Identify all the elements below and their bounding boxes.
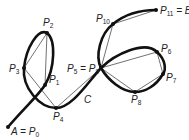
point-p10	[111, 22, 115, 26]
point-p2	[45, 31, 49, 35]
label-p8: P8	[131, 94, 142, 106]
point-p1	[43, 83, 47, 87]
label-p1: P1	[49, 74, 60, 86]
chord-p8-p9	[101, 68, 135, 92]
label-p4: P4	[53, 111, 64, 123]
label-p3: P3	[9, 63, 20, 75]
point-p11	[154, 8, 158, 12]
point-p5-p9	[99, 66, 103, 70]
point-p6	[155, 50, 159, 54]
label-p10: P10	[96, 13, 110, 25]
point-p0	[6, 125, 10, 129]
curve-diagram: A = P0 P1 P2 P3 P4 P5 = P9 P6 P7 P8 P10 …	[0, 0, 189, 140]
label-p7: P7	[166, 72, 177, 84]
point-p3	[22, 66, 26, 70]
label-p0: A = P0	[10, 126, 39, 138]
point-p7	[161, 72, 165, 76]
label-p2: P2	[43, 17, 54, 29]
point-p4	[54, 106, 58, 110]
label-p5-p9: P5 = P9	[67, 63, 99, 75]
label-curve-c: C	[84, 94, 92, 105]
label-p6: P6	[161, 43, 172, 55]
label-p11: P11 = B	[160, 5, 189, 17]
chord-p1-p2	[45, 33, 47, 85]
